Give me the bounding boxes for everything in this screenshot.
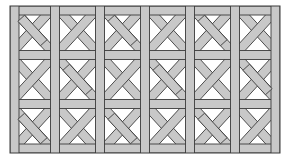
vertical-band [231,1,240,158]
woven-lattice-pattern [0,0,286,163]
vertical-band [271,1,280,158]
vertical-band [141,1,150,158]
vertical-band [10,1,19,158]
vertical-band [186,1,195,158]
vertical-band [51,1,60,158]
vertical-band [96,1,105,158]
lattice-bands [5,1,285,158]
